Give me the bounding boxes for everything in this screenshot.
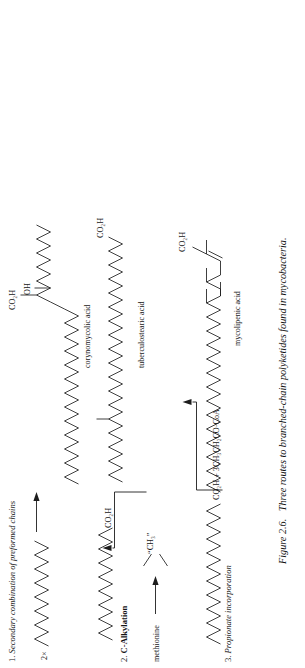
section-2-heading: 2. C-Alkylation — [118, 606, 128, 662]
molecule-name-tuberculostearic-acid: tuberculostearic acid — [136, 302, 145, 368]
section-2-number: 2. — [118, 656, 128, 662]
figure-number: Figure 2.6. — [276, 519, 287, 564]
molecule-name-corynomycolic-acid: corynomycolic acid — [82, 305, 91, 368]
section-1-title: Secondary combination of preformed chain… — [6, 501, 16, 653]
structure-tuberculostearic-acid — [96, 230, 130, 482]
figure-caption-text: Three routes to branched-chain polyketid… — [276, 237, 287, 511]
section-2-title: C-Alkylation — [118, 606, 128, 654]
label-co2h-substrate-2: CO₂H — [104, 508, 112, 528]
label-co2h-mycolipenic: CO₂H — [178, 232, 186, 252]
molecule-name-mycolipenic-acid: mycolipenic acid — [232, 291, 241, 346]
chain-reactant-1 — [22, 538, 56, 646]
reaction-arrow-1 — [31, 492, 41, 532]
section-1-heading: 1. Secondary combination of preformed ch… — [6, 501, 16, 662]
structure-corynomycolic-acid — [8, 218, 84, 486]
reaction-arrow-methionine — [150, 576, 160, 614]
label-co2h-tuberculostearic: CO₂H — [96, 218, 104, 238]
label-oh-corynomycolic: OH — [23, 283, 31, 295]
figure-canvas: 1. Secondary combination of preformed ch… — [0, 0, 305, 668]
figure-caption: Figure 2.6. Three routes to branched-cha… — [276, 237, 287, 564]
reagent-label-methionine: methionine — [152, 625, 160, 662]
chain-reactant-3 — [196, 494, 226, 644]
label-co2h-corynomycolic: CO₂H — [8, 290, 16, 310]
section-1-number: 1. — [6, 656, 16, 662]
structure-mycolipenic-acid — [188, 220, 228, 492]
chain-substrate-2 — [88, 520, 118, 640]
section-3-number: 3. — [222, 656, 232, 662]
reagent-label-2x: 2× — [40, 651, 48, 660]
